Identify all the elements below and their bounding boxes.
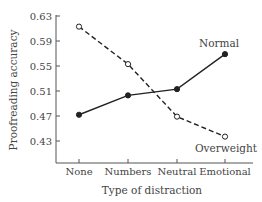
- y-tick-label: 0.51: [30, 86, 52, 97]
- data-point-open-icon: [222, 134, 227, 139]
- x-tick-label: Neutral: [157, 166, 196, 177]
- y-tick-label: 0.55: [30, 61, 52, 72]
- y-tick-label: 0.47: [30, 111, 52, 122]
- series-label-normal: Normal: [199, 37, 240, 49]
- x-tick-label: Emotional: [199, 166, 251, 177]
- line-chart: 0.630.590.550.510.470.43 NoneNumbersNeut…: [0, 0, 262, 202]
- data-point-open-icon: [174, 114, 179, 119]
- data-point-filled-icon: [174, 87, 179, 92]
- x-tick-label: None: [65, 166, 92, 177]
- x-tick-label: Numbers: [105, 166, 152, 177]
- data-point-filled-icon: [222, 52, 227, 57]
- series-normal: [76, 52, 227, 118]
- y-tick-label: 0.43: [30, 136, 52, 147]
- data-point-open-icon: [125, 62, 130, 67]
- data-point-open-icon: [76, 24, 81, 29]
- data-point-filled-icon: [125, 93, 130, 98]
- series-label-overweight: Overweight: [195, 142, 258, 154]
- y-axis-ticks: 0.630.590.550.510.470.43: [30, 11, 60, 147]
- y-tick-label: 0.63: [30, 11, 52, 22]
- y-axis-label: Proofreading accuracy: [7, 29, 19, 150]
- y-tick-label: 0.59: [30, 36, 52, 47]
- data-point-filled-icon: [76, 112, 81, 117]
- x-axis-ticks: NoneNumbersNeutralEmotional: [65, 159, 250, 177]
- x-axis-label: Type of distraction: [102, 184, 203, 196]
